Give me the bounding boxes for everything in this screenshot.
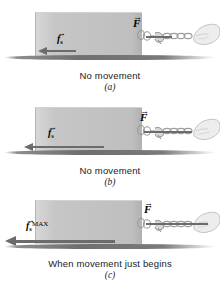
hand-a bbox=[194, 24, 220, 44]
applied-force-label-b: →F bbox=[140, 112, 147, 123]
vector-arrow-icon: → bbox=[48, 123, 57, 132]
vector-arrow-icon: → bbox=[26, 216, 35, 225]
caption-c: When movement just begins bbox=[0, 258, 220, 269]
ground-line-c bbox=[4, 244, 216, 249]
panel-a-scene: →F →fs bbox=[0, 0, 220, 66]
panel-letter-c: (c) bbox=[0, 270, 220, 280]
friction-force-label-a: →fs bbox=[57, 34, 63, 46]
caption-a: No movement bbox=[0, 70, 220, 81]
vector-arrow-icon: → bbox=[133, 13, 142, 22]
ground-line-b bbox=[4, 150, 216, 155]
vector-arrow-icon: → bbox=[57, 29, 66, 38]
panel-b: →F →fs No movement (b) bbox=[0, 95, 220, 190]
hand-b bbox=[194, 119, 220, 139]
panel-letter-b: (b) bbox=[0, 177, 220, 187]
static-friction-figure: →F →fs No movement (a) bbox=[0, 0, 220, 283]
vector-arrow-icon: → bbox=[140, 107, 149, 116]
applied-force-label-a: →F bbox=[133, 18, 140, 29]
hook-b bbox=[155, 127, 164, 139]
panel-c-scene: →F →fsMAX bbox=[0, 188, 220, 254]
hook-a bbox=[155, 32, 164, 44]
panel-b-scene: →F →fs bbox=[0, 95, 220, 161]
ground-line-a bbox=[4, 55, 216, 60]
panel-a: →F →fs No movement (a) bbox=[0, 0, 220, 95]
caption-b: No movement bbox=[0, 165, 220, 176]
block-c bbox=[35, 200, 142, 244]
panel-c: →F →fsMAX When movement just begins (c) bbox=[0, 188, 220, 283]
friction-force-label-b: →fs bbox=[48, 128, 54, 140]
vector-arrow-icon: → bbox=[144, 199, 153, 208]
panel-letter-a: (a) bbox=[0, 82, 220, 92]
applied-force-label-c: →F bbox=[144, 204, 151, 215]
friction-force-label-c: →fsMAX bbox=[26, 221, 49, 233]
